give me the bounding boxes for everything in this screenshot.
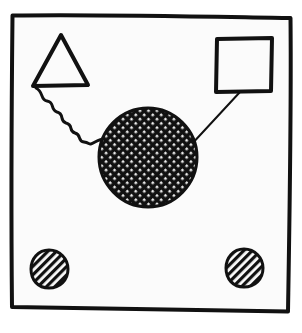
circle-bottom-right <box>226 249 263 287</box>
center-circle <box>99 108 197 207</box>
hand-drawn-diagram <box>0 0 302 333</box>
square-shape <box>216 38 272 92</box>
circle-bottom-left <box>31 250 68 288</box>
figure-canvas: Hand-drawn diagram with frame, triangle,… <box>0 0 302 333</box>
